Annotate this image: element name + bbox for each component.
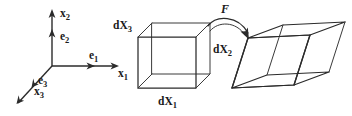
cube-front-face	[138, 37, 196, 88]
figure-canvas: x2 e2 x1 e1 x3 e3 dX3 dX2 dX1	[0, 0, 352, 116]
coordinate-frame: x2 e2 x1 e1 x3 e3	[17, 7, 129, 104]
edge-label-dX3: dX3	[113, 19, 132, 34]
axis-x1-basis-label: e1	[89, 49, 98, 64]
axis-x2	[49, 9, 56, 66]
axis-x2-basis-label: e2	[60, 30, 69, 45]
cube-edge-bottom-right	[196, 74, 210, 88]
mapping-label-F: F	[220, 2, 229, 16]
mapping-arc-inner	[210, 24, 245, 35]
axis-x2-label: x2	[60, 7, 70, 22]
cube-edge-bottom-left	[138, 74, 152, 88]
edge-label-dX2: dX2	[213, 43, 232, 58]
deformed-edge-back-left	[267, 25, 283, 75]
axis-x1-label: x1	[118, 67, 128, 82]
deformation-gradient-arrow: F	[208, 2, 249, 40]
cube-edge-top-left	[138, 23, 152, 37]
undeformed-cube	[138, 23, 210, 88]
axis-x1	[52, 63, 119, 70]
cube-back-face	[152, 23, 210, 74]
deformed-edge-back-right	[329, 22, 345, 72]
edge-label-dX1: dX1	[158, 95, 177, 110]
deformation-figure: x2 e2 x1 e1 x3 e3 dX3 dX2 dX1	[0, 0, 352, 116]
deformed-parallelepiped	[232, 22, 345, 88]
